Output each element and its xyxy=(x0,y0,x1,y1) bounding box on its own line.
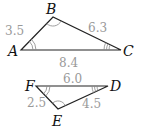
side-label-ed: 4.5 xyxy=(82,97,101,111)
similar-triangles-diagram: A B C 3.5 6.3 8.4 F E D 6.0 2.5 4.5 xyxy=(0,0,141,131)
side-label-fe: 2.5 xyxy=(27,96,46,110)
side-label-ab: 3.5 xyxy=(5,24,24,38)
triangle-fed: F E D 6.0 2.5 4.5 xyxy=(24,72,121,129)
vertex-label-b: B xyxy=(45,1,56,17)
vertex-label-e: E xyxy=(51,113,62,129)
vertex-label-a: A xyxy=(6,43,18,59)
side-label-bc: 6.3 xyxy=(88,21,107,35)
triangle-abc: A B C 3.5 6.3 8.4 xyxy=(5,1,134,70)
vertex-label-c: C xyxy=(123,43,134,59)
vertex-label-d: D xyxy=(109,78,121,94)
side-label-fd: 6.0 xyxy=(63,72,82,86)
side-label-ac: 8.4 xyxy=(59,56,78,70)
vertex-label-f: F xyxy=(24,78,36,94)
